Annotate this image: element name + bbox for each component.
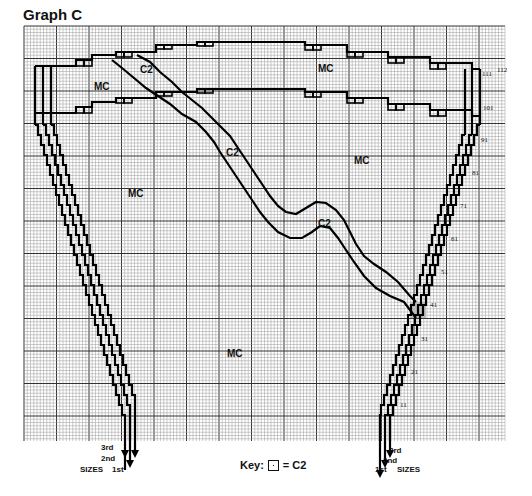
svg-text:3rd: 3rd	[101, 443, 114, 452]
row-number: 81	[472, 169, 480, 177]
region-label: C2	[318, 218, 331, 229]
region-label: MC	[318, 63, 334, 74]
c2-stitch-symbol-icon	[268, 460, 279, 471]
svg-text:3rd: 3rd	[389, 446, 402, 455]
row-number: 41	[430, 301, 438, 309]
row-number: 11	[400, 401, 407, 409]
arrow-down-icon	[126, 460, 134, 468]
region-label: MC	[94, 81, 110, 92]
knitting-chart: MCC2MCC2MCMCC2MC 11211110191817161514131…	[0, 0, 532, 496]
region-label: MC	[227, 348, 243, 359]
left-size-legend: 3rd 2nd SIZES 1st	[80, 443, 124, 474]
svg-text:1st: 1st	[112, 465, 124, 474]
row-number: 111	[482, 70, 492, 78]
svg-text:2nd: 2nd	[383, 456, 397, 465]
chart-key: Key: = C2	[240, 459, 306, 471]
svg-text:SIZES: SIZES	[397, 465, 421, 474]
row-number: 91	[481, 136, 489, 144]
svg-text:2nd: 2nd	[101, 454, 115, 463]
row-number: 112	[497, 66, 508, 74]
key-label: Key:	[240, 459, 264, 471]
svg-text:1st: 1st	[375, 465, 387, 474]
svg-text:SIZES: SIZES	[80, 465, 104, 474]
row-number: 21	[411, 368, 419, 376]
row-number: 101	[483, 104, 494, 112]
region-label: C2	[226, 147, 239, 158]
row-number: 61	[451, 235, 459, 243]
region-label: MC	[354, 155, 370, 166]
region-label: C2	[140, 64, 153, 75]
arrow-down-icon	[121, 450, 129, 458]
row-number: 31	[421, 335, 429, 343]
row-number: 71	[460, 202, 468, 210]
arrow-down-icon	[131, 450, 139, 458]
row-number: 51	[441, 268, 449, 276]
region-label: MC	[128, 188, 144, 199]
key-meaning: = C2	[283, 459, 307, 471]
